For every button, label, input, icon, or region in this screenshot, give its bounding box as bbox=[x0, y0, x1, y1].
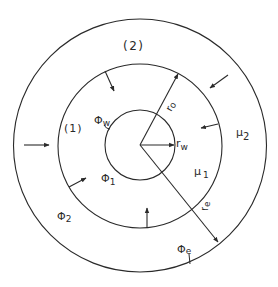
flow-arrow-icon bbox=[201, 124, 218, 128]
r-w-label: rw bbox=[176, 137, 188, 152]
flow-arrow-icon bbox=[105, 71, 114, 91]
phi-e-label: Φe bbox=[177, 243, 192, 256]
flow-arrow-icon bbox=[210, 75, 228, 88]
mu-2-label: μ2 bbox=[236, 126, 249, 142]
inner-region-circle bbox=[58, 64, 222, 228]
region-2-label: (2) bbox=[123, 39, 145, 53]
flow-arrow-icon bbox=[69, 178, 86, 187]
radial-flow-diagram: (2) (1) Φw Φ1 Φ2 Φe μ1 μ2 rw ro re bbox=[0, 0, 278, 287]
phi-2-label: Φ2 bbox=[57, 210, 71, 224]
r-e-label: re bbox=[199, 201, 212, 211]
phi-1-label: Φ1 bbox=[101, 172, 115, 187]
mu-1-label: μ1 bbox=[194, 165, 209, 180]
phi-w-label: Φw bbox=[94, 114, 110, 128]
region-1-label: (1) bbox=[64, 122, 83, 135]
r-o-label: ro bbox=[163, 99, 178, 114]
